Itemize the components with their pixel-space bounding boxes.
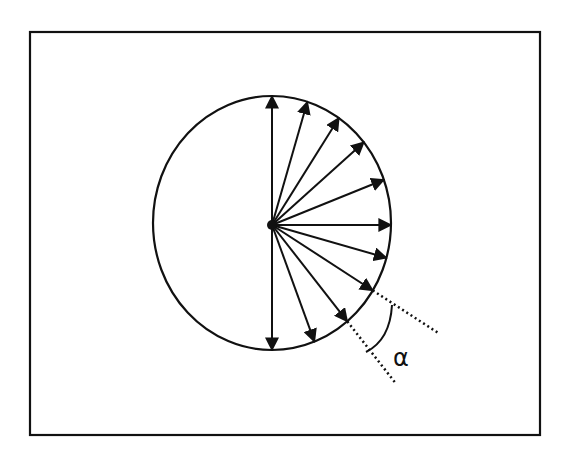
vector-fan-diagram: α bbox=[0, 0, 570, 459]
force-vector-arrow bbox=[272, 102, 307, 225]
force-vector-arrow bbox=[272, 142, 364, 225]
center-point bbox=[267, 220, 277, 230]
angle-arc bbox=[366, 305, 392, 352]
angle-guide-dotted-line bbox=[373, 290, 440, 334]
force-vector-arrow bbox=[272, 118, 339, 225]
force-vector-arrow bbox=[272, 180, 384, 225]
force-vector-arrow bbox=[272, 225, 386, 258]
force-vector-arrow bbox=[272, 225, 373, 290]
angle-label: α bbox=[393, 344, 409, 372]
vector-group bbox=[272, 96, 391, 350]
force-vector-arrow bbox=[272, 225, 314, 342]
force-vector-arrow bbox=[272, 225, 347, 321]
angle-guide-dotted-line bbox=[347, 321, 396, 384]
